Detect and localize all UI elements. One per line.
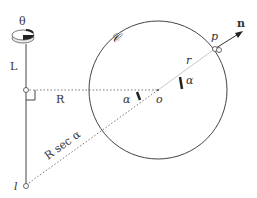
center-point — [157, 89, 159, 91]
Rsec-dotted-line — [26, 90, 158, 185]
l-label: l — [14, 180, 18, 193]
arrow-head-icon — [235, 31, 243, 38]
o-label: o — [156, 93, 163, 106]
rotation-disk-icon — [12, 30, 34, 43]
alpha-angle-mark-left — [137, 92, 140, 100]
point-p-marker — [217, 48, 222, 53]
alpha-angle-mark-right — [180, 77, 182, 89]
n-label: n — [237, 17, 245, 30]
axis-point-l — [24, 184, 29, 189]
L-label: L — [10, 60, 18, 73]
r-label: r — [186, 54, 192, 67]
axis-point-upper — [24, 88, 29, 93]
diagram: θ L R 𝒞 r n p α α o l R sec α — [0, 0, 257, 198]
circle-label: 𝒞 — [111, 31, 123, 45]
Rsec-label: R sec α — [42, 127, 83, 162]
p-label: p — [211, 30, 218, 43]
alpha-right-label: α — [186, 74, 194, 87]
R-label: R — [56, 93, 65, 106]
theta-label: θ — [19, 15, 26, 28]
alpha-left-label: α — [123, 93, 131, 106]
